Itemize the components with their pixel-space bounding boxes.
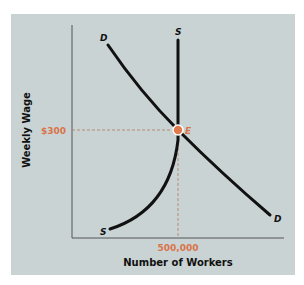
equilibrium-point [173,125,183,135]
supply-label-top: S [175,27,181,37]
y-axis-title: Weekly Wage [21,92,32,168]
supply-label-bottom: S [100,227,106,237]
supply-curve [110,40,178,229]
workers-tick-label: 500,000 [158,243,199,253]
demand-label-bottom: D [274,214,282,224]
x-axis-title: Number of Workers [123,257,233,268]
labor-market-chart: D D S S E $300 500,000 Number of Workers… [0,0,304,285]
equilibrium-label: E [185,126,192,136]
demand-label-top: D [100,33,108,43]
wage-tick-label: $300 [41,126,66,136]
